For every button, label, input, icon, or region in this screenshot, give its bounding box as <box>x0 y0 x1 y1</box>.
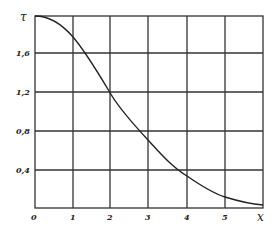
x-axis-label: x <box>257 210 264 224</box>
x-tick-4: 4 <box>184 212 190 222</box>
y-tick-0-4: 0,4 <box>16 165 30 175</box>
plot-frame <box>35 16 263 208</box>
grid <box>35 16 263 208</box>
x-tick-0: 0 <box>31 212 37 222</box>
x-tick-5: 5 <box>222 212 228 222</box>
x-tick-3: 3 <box>145 212 151 222</box>
y-tick-1-6: 1,6 <box>16 48 30 58</box>
x-tick-1: 1 <box>70 212 76 222</box>
y-axis-label: τ <box>20 10 27 24</box>
curve-tau <box>35 16 263 205</box>
y-tick-1-2: 1,2 <box>16 87 30 97</box>
x-tick-2: 2 <box>106 212 113 222</box>
y-tick-0-8: 0,8 <box>16 126 30 136</box>
chart: τ 1,6 1,2 0,8 0,4 0 1 2 3 4 5 x <box>0 0 279 235</box>
